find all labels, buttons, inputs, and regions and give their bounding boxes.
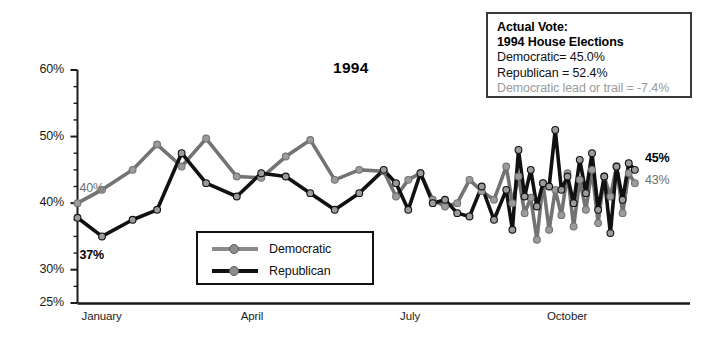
x-tick-label-october: October xyxy=(547,310,587,322)
legend-label-democratic: Democratic xyxy=(269,242,331,256)
data-point-republican xyxy=(99,233,106,240)
x-tick-label-april: April xyxy=(241,310,264,322)
actual-vote-democratic: Democratic= 45.0% xyxy=(497,50,690,66)
data-point-republican xyxy=(307,190,314,197)
data-point-republican xyxy=(515,146,522,153)
data-point-republican xyxy=(570,200,577,207)
data-point-republican xyxy=(393,180,400,187)
data-point-democratic xyxy=(533,236,540,243)
data-point-democratic xyxy=(546,226,553,233)
y-tick-label-50: 50% xyxy=(12,129,64,143)
legend-swatch-democratic xyxy=(212,243,258,255)
data-point-democratic xyxy=(393,193,400,200)
data-point-republican xyxy=(527,166,534,173)
data-point-republican xyxy=(129,216,136,223)
data-point-democratic xyxy=(466,176,473,183)
data-point-democratic xyxy=(631,180,638,187)
data-point-democratic xyxy=(576,176,583,183)
data-point-democratic xyxy=(282,153,289,160)
data-point-republican xyxy=(466,213,473,220)
data-point-democratic xyxy=(503,163,510,170)
x-tick-label-january: January xyxy=(82,310,122,322)
actual-vote-heading-line2: 1994 House Elections xyxy=(497,35,690,50)
data-point-democratic xyxy=(405,176,412,183)
rep-start-label: 37% xyxy=(80,248,104,262)
data-point-democratic xyxy=(607,193,614,200)
data-point-republican xyxy=(533,203,540,210)
data-point-republican xyxy=(491,216,498,223)
data-point-republican xyxy=(282,173,289,180)
actual-vote-republican: Republican = 52.4% xyxy=(497,66,690,82)
y-tick-label-60: 60% xyxy=(12,62,64,76)
data-point-republican xyxy=(405,206,412,213)
data-point-republican xyxy=(582,190,589,197)
data-point-democratic xyxy=(509,200,516,207)
rep-end-label: 45% xyxy=(645,151,669,165)
data-point-democratic xyxy=(442,203,449,210)
legend-item-republican[interactable]: Republican xyxy=(212,260,372,282)
data-point-republican xyxy=(331,206,338,213)
data-point-republican xyxy=(613,163,620,170)
actual-vote-lead-or-trail: Democratic lead or trail = -7.4% xyxy=(497,81,690,97)
data-point-republican xyxy=(595,206,602,213)
dem-start-label: 40% xyxy=(80,181,104,195)
data-point-democratic xyxy=(558,212,565,219)
dem-end-label: 43% xyxy=(645,173,669,187)
data-point-republican xyxy=(203,180,210,187)
data-point-republican xyxy=(589,150,596,157)
data-point-democratic xyxy=(589,166,596,173)
data-point-democratic xyxy=(129,166,136,173)
data-point-republican xyxy=(454,210,461,217)
actual-vote-box: Actual Vote: 1994 House Elections Democr… xyxy=(486,12,692,98)
data-point-democratic xyxy=(521,210,528,217)
data-point-democratic xyxy=(595,220,602,227)
data-point-republican xyxy=(380,166,387,173)
data-point-republican xyxy=(417,170,424,177)
data-point-republican xyxy=(601,173,608,180)
series-lines xyxy=(74,127,638,244)
y-tick-label-25: 25% xyxy=(12,295,64,309)
data-point-democratic xyxy=(619,210,626,217)
data-point-republican xyxy=(178,150,185,157)
data-point-democratic xyxy=(582,206,589,213)
data-point-republican xyxy=(607,230,614,237)
data-point-republican xyxy=(625,160,632,167)
election-poll-chart: 1994 25%30%40%50%60% JanuaryAprilJulyOct… xyxy=(0,0,704,339)
data-point-democratic xyxy=(331,176,338,183)
data-point-democratic xyxy=(515,173,522,180)
data-point-democratic xyxy=(570,223,577,230)
data-point-republican xyxy=(564,173,571,180)
data-point-republican xyxy=(576,156,583,163)
data-point-republican xyxy=(442,196,449,203)
data-point-democratic xyxy=(178,163,185,170)
data-point-republican xyxy=(429,200,436,207)
data-point-republican xyxy=(258,170,265,177)
y-tick-label-30: 30% xyxy=(12,262,64,276)
legend-item-democratic[interactable]: Democratic xyxy=(212,238,372,260)
data-point-republican xyxy=(356,190,363,197)
y-tick-label-40: 40% xyxy=(12,195,64,209)
data-point-republican xyxy=(478,183,485,190)
data-point-republican xyxy=(74,214,81,221)
data-point-democratic xyxy=(233,173,240,180)
data-point-republican xyxy=(546,183,553,190)
legend-label-republican: Republican xyxy=(269,264,331,278)
series-legend: Democratic Republican xyxy=(196,231,374,285)
data-point-democratic xyxy=(491,196,498,203)
data-point-republican xyxy=(619,196,626,203)
legend-swatch-republican xyxy=(212,265,258,277)
data-point-democratic xyxy=(154,141,161,148)
data-point-democratic xyxy=(74,200,81,207)
data-point-democratic xyxy=(454,200,461,207)
data-point-republican xyxy=(631,166,638,173)
data-point-democratic xyxy=(203,135,210,142)
actual-vote-heading-line1: Actual Vote: xyxy=(497,20,690,35)
data-point-democratic xyxy=(356,166,363,173)
data-point-republican xyxy=(503,186,510,193)
x-tick-label-july: July xyxy=(400,310,420,322)
data-point-democratic xyxy=(307,137,314,144)
data-point-republican xyxy=(233,193,240,200)
data-point-republican xyxy=(509,226,516,233)
data-point-republican xyxy=(154,206,161,213)
data-point-republican xyxy=(552,127,559,134)
